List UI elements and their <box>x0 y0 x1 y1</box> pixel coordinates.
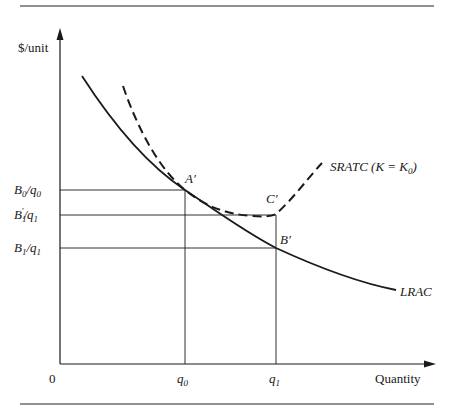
x-axis-arrow-icon <box>424 361 436 368</box>
sratc-curve <box>123 86 322 216</box>
cost-curves-diagram: $/unit Quantity 0 q0 q1 B0/q0 B1′/q1 B1/… <box>0 0 454 411</box>
y-axis-arrow-icon <box>57 28 64 40</box>
x-axis-label: Quantity <box>375 371 421 386</box>
point-b-label: B′ <box>280 232 291 247</box>
x-tick-q1: q1 <box>269 371 280 388</box>
origin-label: 0 <box>49 371 56 386</box>
y-tick-b0-q0: B0/q0 <box>14 182 42 199</box>
point-a-label: A′ <box>184 171 196 186</box>
lrac-curve <box>82 76 396 290</box>
lrac-label: LRAC <box>399 284 432 299</box>
x-tick-q0: q0 <box>177 371 189 388</box>
sratc-label: SRATC (K = K0) <box>330 159 417 176</box>
y-tick-b1prime-q1: B1′/q1 <box>14 206 38 224</box>
y-axis-label: $/unit <box>18 40 49 55</box>
y-tick-b1-q1: B1/q1 <box>14 240 41 257</box>
point-c-label: C′ <box>266 191 278 206</box>
